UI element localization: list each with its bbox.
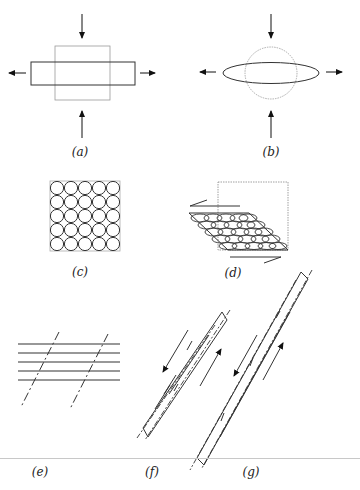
separator-line	[0, 458, 360, 459]
label-d: (d)	[224, 266, 241, 280]
panel-a	[9, 14, 155, 138]
label-g: (g)	[242, 465, 259, 479]
panel-c	[50, 181, 120, 251]
label-e: (e)	[32, 465, 48, 479]
deformation-diagram	[0, 0, 360, 490]
label-a: (a)	[72, 145, 89, 159]
panel-b	[200, 14, 342, 138]
panel-e	[18, 332, 120, 409]
panel-f	[137, 310, 230, 440]
panel-g	[190, 270, 312, 470]
panel-d	[189, 182, 288, 263]
label-b: (b)	[262, 145, 279, 159]
label-c: (c)	[72, 265, 88, 279]
label-f: (f)	[145, 465, 159, 479]
